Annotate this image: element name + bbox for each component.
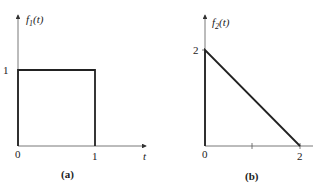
plot-a: f1(t) 1 0 1 t (a) <box>3 13 147 181</box>
plot-b: f2(t) 2 0 2 (b) <box>193 15 313 183</box>
plot-a-pulse <box>18 70 95 146</box>
plot-b-ramp <box>205 50 300 146</box>
plot-b-x-tick-2: 2 <box>297 150 303 162</box>
figure-canvas: f1(t) 1 0 1 t (a) f2(t) 2 0 2 (b) <box>0 0 313 190</box>
plot-a-y-tick-1: 1 <box>3 64 9 76</box>
plot-a-x-tick-0: 0 <box>15 148 21 160</box>
plot-b-caption: (b) <box>245 170 259 183</box>
plot-b-ylabel: f2(t) <box>212 16 230 31</box>
plot-a-x-tick-1: 1 <box>92 150 98 162</box>
plot-a-xlabel: t <box>143 150 147 162</box>
plot-a-ylabel: f1(t) <box>26 13 44 28</box>
plot-b-y-tick-2: 2 <box>193 44 199 56</box>
plot-b-x-tick-0: 0 <box>202 148 208 160</box>
plot-a-caption: (a) <box>61 168 74 181</box>
